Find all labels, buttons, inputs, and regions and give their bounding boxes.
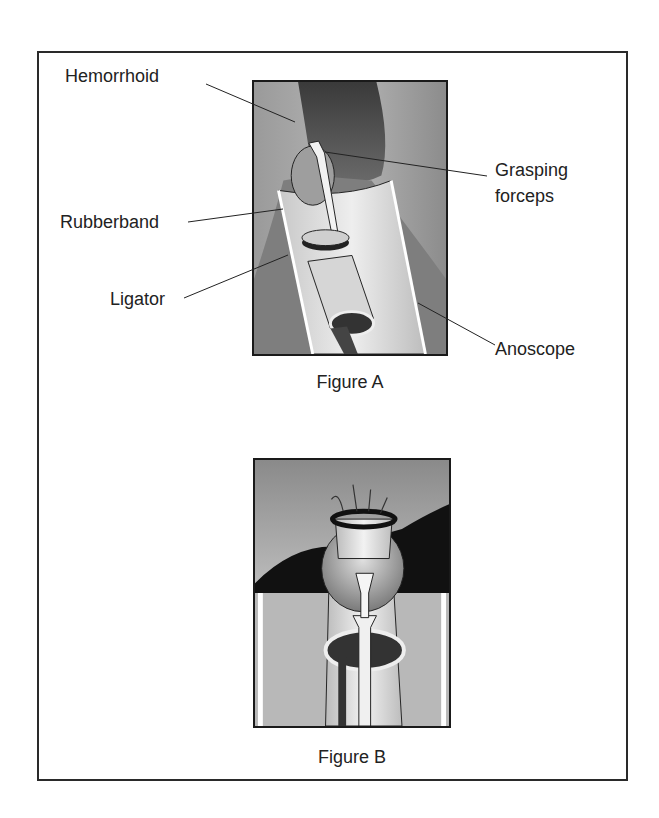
caption-figure-a: Figure A (300, 372, 400, 393)
label-grasping-forceps-line1: Grasping (495, 160, 568, 180)
label-rubberband: Rubberband (60, 212, 159, 232)
label-anoscope: Anoscope (495, 339, 575, 359)
caption-figure-b: Figure B (302, 747, 402, 768)
label-hemorrhoid: Hemorrhoid (65, 66, 159, 86)
label-ligator: Ligator (110, 289, 165, 309)
label-grasping-forceps-line2: forceps (495, 186, 554, 206)
figure-b-illustration (253, 458, 451, 728)
figure-a-illustration (252, 80, 448, 356)
